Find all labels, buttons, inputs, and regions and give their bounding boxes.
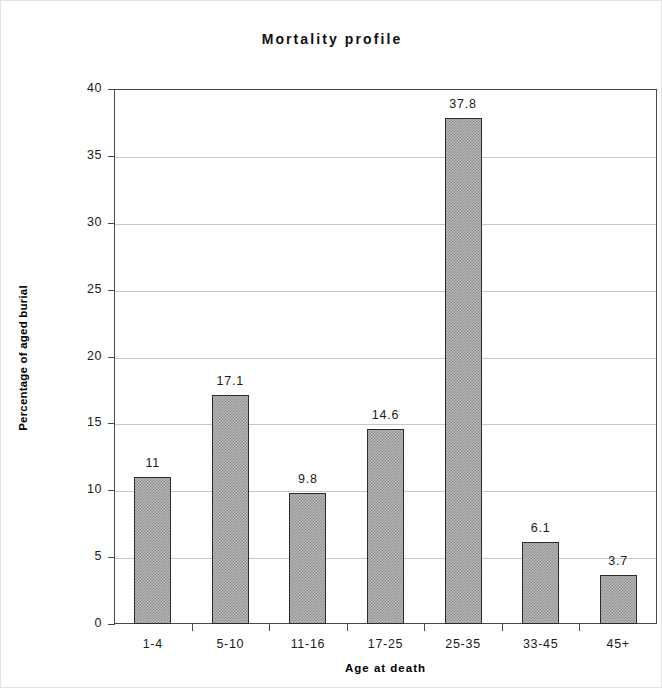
y-axis-tick-label: 5 bbox=[56, 549, 102, 563]
bar bbox=[134, 477, 171, 624]
y-axis-tick bbox=[108, 223, 115, 224]
x-axis-tick-label: 45+ bbox=[578, 637, 658, 651]
y-axis-tick bbox=[108, 156, 115, 157]
bar bbox=[600, 575, 637, 624]
bar bbox=[289, 493, 326, 624]
y-axis-tick bbox=[108, 624, 115, 625]
y-axis-tick bbox=[108, 490, 115, 491]
y-axis-tick-label: 40 bbox=[56, 81, 102, 95]
gridline bbox=[115, 291, 656, 292]
gridline bbox=[115, 157, 656, 158]
x-axis-tick bbox=[192, 624, 193, 631]
bar-value-label: 9.8 bbox=[263, 472, 353, 486]
bar-value-label: 14.6 bbox=[341, 408, 431, 422]
x-axis-tick bbox=[347, 624, 348, 631]
y-axis-tick bbox=[108, 290, 115, 291]
x-axis-tick bbox=[269, 624, 270, 631]
chart-title: Mortality profile bbox=[1, 31, 662, 47]
y-axis-tick-label: 15 bbox=[56, 415, 102, 429]
y-axis-tick-label: 30 bbox=[56, 215, 102, 229]
x-axis-tick-label: 33-45 bbox=[501, 637, 581, 651]
x-axis-tick-label: 11-16 bbox=[268, 637, 348, 651]
y-axis-tick bbox=[108, 557, 115, 558]
x-axis-tick-label: 1-4 bbox=[113, 637, 193, 651]
bar-value-label: 6.1 bbox=[496, 521, 586, 535]
x-axis-tick-label: 17-25 bbox=[346, 637, 426, 651]
y-axis-tick bbox=[108, 89, 115, 90]
bar-value-label: 11 bbox=[108, 456, 198, 470]
y-axis-tick-label: 0 bbox=[56, 616, 102, 630]
bar bbox=[212, 395, 249, 624]
gridline bbox=[115, 424, 656, 425]
y-axis-tick-label: 35 bbox=[56, 148, 102, 162]
y-axis-title: Percentage of aged burial bbox=[17, 218, 29, 498]
x-axis-tick bbox=[502, 624, 503, 631]
bar bbox=[522, 542, 559, 624]
x-axis-tick-label: 25-35 bbox=[423, 637, 503, 651]
y-axis-tick-label: 25 bbox=[56, 282, 102, 296]
gridline bbox=[115, 358, 656, 359]
x-axis-tick bbox=[579, 624, 580, 631]
gridline bbox=[115, 224, 656, 225]
y-axis-tick bbox=[108, 423, 115, 424]
bar bbox=[367, 429, 404, 624]
x-axis-tick bbox=[424, 624, 425, 631]
y-axis-tick bbox=[108, 357, 115, 358]
x-axis-title: Age at death bbox=[114, 662, 657, 674]
y-axis-tick-label: 10 bbox=[56, 482, 102, 496]
bar-value-label: 37.8 bbox=[418, 97, 508, 111]
y-axis-tick-label: 20 bbox=[56, 349, 102, 363]
x-axis-tick-label: 5-10 bbox=[190, 637, 270, 651]
bar bbox=[445, 118, 482, 624]
bar-value-label: 17.1 bbox=[185, 374, 275, 388]
mortality-profile-bar-chart: Mortality profile Percentage of aged bur… bbox=[0, 0, 662, 688]
bar-value-label: 3.7 bbox=[573, 554, 662, 568]
